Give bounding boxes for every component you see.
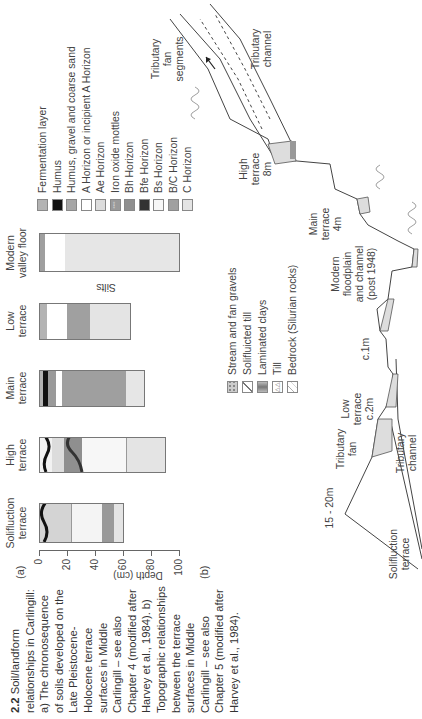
label-main-terrace: Mainterrace4m [308, 199, 344, 249]
laminated-clays-patch [290, 141, 296, 159]
label-solifluction-terrace: Solifluctionterrace [388, 519, 412, 589]
figure: 2.2 Soil/landform relationships in Carli… [0, 0, 422, 719]
label-tributary-channel-right: Tributarychannel [250, 19, 274, 79]
label-tributary-fan-segments: Tributaryfansegments [150, 24, 186, 94]
label-high-terrace: Highterrace8m [238, 144, 274, 194]
label-tributary-channel-left: Tributarychannel [395, 423, 419, 483]
label-c1m: c.1m [360, 329, 372, 369]
label-15-20m: 15 - 20m [324, 483, 336, 533]
topographic-cross-section [0, 0, 422, 719]
label-low-terrace: Lowterracec.2m [340, 384, 376, 434]
